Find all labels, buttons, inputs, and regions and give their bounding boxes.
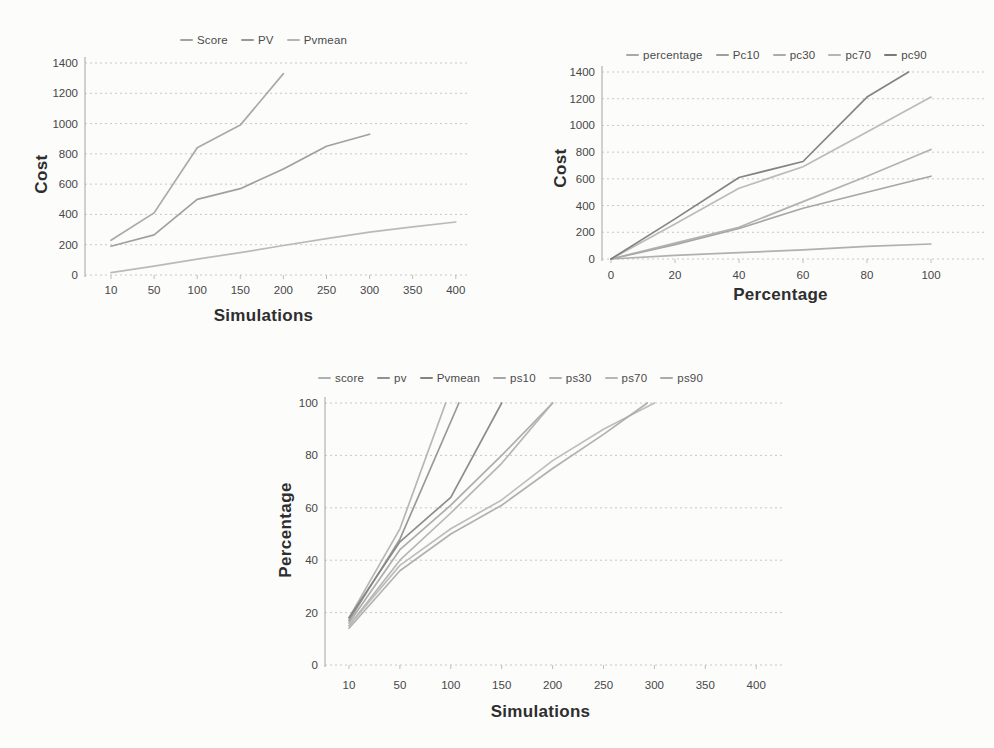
series-line-pc90 (611, 72, 909, 259)
y-tick-label: 1000 (52, 118, 78, 130)
y-tick-label: 1000 (569, 119, 595, 131)
y-tick-label: 400 (59, 208, 78, 220)
x-tick-label: 300 (645, 679, 664, 691)
x-tick-label: 400 (446, 284, 465, 296)
y-tick-label: 800 (576, 146, 595, 158)
x-tick-label: 10 (105, 284, 118, 296)
x-tick-label: 350 (696, 679, 715, 691)
series-line-pc30 (611, 150, 931, 260)
x-tick-label: 150 (492, 679, 511, 691)
x-tick-label: 250 (594, 679, 613, 691)
series-line-PV (111, 134, 370, 246)
x-tick-label: 200 (543, 679, 562, 691)
series-line-ps30 (349, 403, 553, 626)
x-tick-label: 150 (231, 284, 250, 296)
y-tick-label: 80 (305, 449, 318, 461)
x-tick-label: 250 (317, 284, 336, 296)
y-tick-label: 40 (305, 554, 318, 566)
x-axis-title: Simulations (491, 702, 591, 722)
y-tick-label: 800 (59, 148, 78, 160)
y-tick-label: 0 (72, 269, 78, 281)
chart-percentage-vs-simulations: scorepvPvmeanps10ps30ps70ps90 Percentage… (246, 358, 794, 744)
y-tick-label: 0 (312, 659, 318, 671)
x-tick-label: 50 (394, 679, 407, 691)
x-tick-label: 100 (441, 679, 460, 691)
x-tick-label: 60 (797, 269, 810, 281)
series-line-percentage (611, 244, 931, 259)
x-tick-label: 200 (274, 284, 293, 296)
y-tick-label: 1400 (52, 57, 78, 69)
x-tick-label: 100 (921, 269, 940, 281)
plot-canvas: 0200400600800100012001400020406080100 (538, 28, 994, 286)
y-tick-label: 60 (305, 502, 318, 514)
y-tick-label: 0 (589, 253, 595, 265)
y-tick-label: 600 (59, 178, 78, 190)
y-tick-label: 200 (576, 226, 595, 238)
series-line-ps70 (349, 403, 654, 626)
x-tick-label: 10 (343, 679, 356, 691)
x-tick-label: 80 (861, 269, 874, 281)
y-tick-label: 600 (576, 173, 595, 185)
x-tick-label: 40 (733, 269, 746, 281)
y-tick-label: 1200 (52, 87, 78, 99)
x-tick-label: 100 (188, 284, 207, 296)
x-tick-label: 0 (608, 269, 614, 281)
series-line-score (349, 403, 446, 618)
x-tick-label: 300 (360, 284, 379, 296)
x-axis-title: Percentage (733, 285, 828, 305)
series-line-pc70 (611, 97, 931, 259)
x-tick-label: 350 (403, 284, 422, 296)
series-line-Pvmean (349, 403, 502, 618)
series-line-Pvmean (111, 222, 456, 273)
chart-cost-vs-percentage: percentagePc10pc30pc70pc90 Cost 02004006… (538, 28, 994, 320)
y-tick-label: 200 (59, 239, 78, 251)
y-tick-label: 1400 (569, 66, 595, 78)
x-tick-label: 50 (148, 284, 161, 296)
y-tick-label: 1200 (569, 93, 595, 105)
series-line-Score (111, 74, 283, 241)
y-tick-label: 20 (305, 607, 318, 619)
chart-cost-vs-simulations: ScorePVPvmean Cost 020040060080010001200… (28, 14, 493, 330)
y-tick-label: 100 (299, 397, 318, 409)
x-tick-label: 20 (669, 269, 682, 281)
x-axis-title: Simulations (214, 306, 314, 326)
x-tick-label: 400 (747, 679, 766, 691)
plot-canvas: 0204060801001050100150200250300350400 (246, 358, 794, 698)
plot-canvas: 0200400600800100012001400105010015020025… (28, 14, 493, 306)
series-line-ps90 (349, 403, 647, 628)
y-tick-label: 400 (576, 200, 595, 212)
